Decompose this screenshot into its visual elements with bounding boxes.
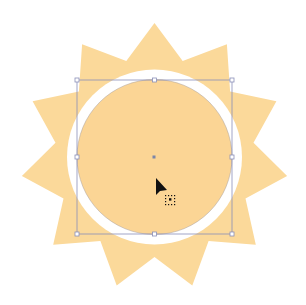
handle-bottom-right[interactable] [230,232,234,236]
handle-bottom[interactable] [153,232,157,236]
handle-top-left[interactable] [75,78,79,82]
handle-top[interactable] [153,78,157,82]
center-point-icon [153,156,156,159]
handle-top-right[interactable] [230,78,234,82]
artboard-canvas[interactable] [0,0,306,305]
handle-right[interactable] [230,155,234,159]
handle-bottom-left[interactable] [75,232,79,236]
handle-left[interactable] [75,155,79,159]
